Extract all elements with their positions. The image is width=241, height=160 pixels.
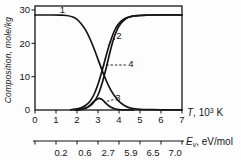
y-tick-label: 20 [19, 38, 30, 49]
secondary-tick-label: 6.5 [146, 147, 159, 158]
secondary-axis-title: Ev, eV/mol [186, 136, 233, 148]
figure: Composition, mole/kg 0102030 01234567 12… [0, 0, 241, 160]
x-tick-label: 5 [137, 114, 142, 125]
y-tick-label: 10 [19, 71, 30, 82]
x-tick-label: 4 [116, 114, 121, 125]
curve-2-label: 2 [116, 30, 121, 41]
y-axis-ticks: 0102030 [19, 4, 35, 115]
x-axis-title: T, 103 K [187, 107, 223, 118]
y-axis-title: Composition, mole/kg [3, 0, 15, 140]
secondary-axis: 0.20.62.75.96.57.0 [33, 141, 184, 158]
x-tick-label: 1 [53, 114, 58, 125]
chart-svg: 0102030 01234567 1243 0.20.62.75.96.57.0… [0, 0, 241, 160]
curve-4-label: 4 [128, 58, 133, 69]
y-tick-label: 0 [25, 104, 30, 115]
secondary-tick-label: 0.6 [78, 147, 91, 158]
x-tick-label: 0 [32, 114, 37, 125]
curve-3-leader [107, 100, 114, 102]
secondary-tick-label: 2.7 [101, 147, 114, 158]
secondary-tick-label: 7.0 [168, 147, 181, 158]
curve-3 [75, 98, 134, 110]
curve-3-label: 3 [115, 92, 120, 103]
curve-1-label: 1 [60, 4, 65, 15]
x-tick-label: 2 [74, 114, 79, 125]
secondary-tick-label: 5.9 [124, 147, 137, 158]
secondary-tick-label: 0.2 [54, 147, 67, 158]
curve-1 [35, 15, 182, 110]
x-tick-label: 7 [179, 114, 184, 125]
x-tick-label: 3 [95, 114, 100, 125]
curves [35, 15, 182, 110]
x-axis-ticks: 01234567 [32, 110, 184, 125]
x-tick-label: 6 [158, 114, 163, 125]
y-tick-label: 30 [19, 4, 30, 15]
curve-2 [71, 15, 182, 110]
